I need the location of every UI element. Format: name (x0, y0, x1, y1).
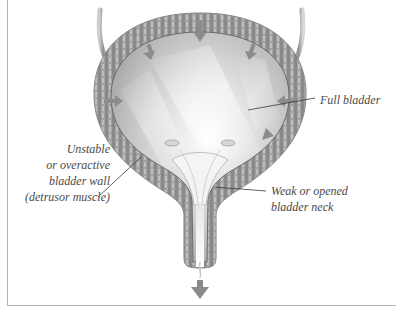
label-detrusor-muscle: Unstable or overactive bladder wall (det… (20, 141, 110, 205)
label-bladder-neck: Weak or opened bladder neck (271, 183, 348, 215)
arrow-down-icon (191, 280, 209, 299)
label-line: Unstable (20, 141, 110, 157)
label-line: bladder wall (20, 173, 110, 189)
label-line: Weak or opened (271, 183, 348, 199)
label-line: bladder neck (271, 199, 348, 215)
label-line: or overactive (20, 157, 110, 173)
label-full-bladder: Full bladder (320, 92, 380, 108)
label-line: (detrusor muscle) (20, 189, 110, 205)
